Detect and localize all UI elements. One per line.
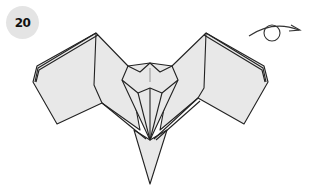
turn-over-icon	[249, 25, 300, 41]
origami-model	[33, 33, 268, 184]
origami-diagram	[0, 0, 317, 193]
